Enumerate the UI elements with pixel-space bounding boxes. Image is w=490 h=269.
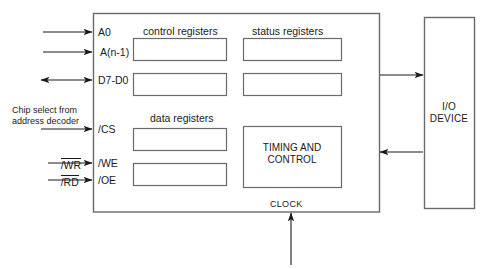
clock-label: CLOCK bbox=[270, 199, 303, 209]
io-device-line1: I/O bbox=[424, 101, 474, 113]
control-register-box-1 bbox=[134, 39, 227, 61]
io-device-line2: DEVICE bbox=[424, 113, 474, 125]
chip-select-note-line1: Chip select from bbox=[12, 105, 77, 115]
rd-signal-label: /RD bbox=[49, 163, 79, 200]
timing-and-control-line2: CONTROL bbox=[243, 154, 341, 166]
data-register-box-2 bbox=[134, 164, 227, 186]
status-registers-label: status registers bbox=[252, 25, 323, 37]
pin-label-d7d0: D7-D0 bbox=[98, 74, 128, 86]
pin-label-oe: /OE bbox=[98, 174, 116, 186]
chip-select-note-line2: address decoder bbox=[12, 116, 79, 126]
status-register-box-2 bbox=[244, 74, 342, 96]
diagram-vector-layer bbox=[0, 0, 490, 269]
pin-label-cs: /CS bbox=[98, 123, 116, 135]
pin-label-we: /WE bbox=[98, 157, 118, 169]
data-register-box-1 bbox=[134, 129, 227, 151]
data-registers-label: data registers bbox=[150, 112, 214, 124]
rd-signal-text: /RD bbox=[61, 175, 79, 188]
pin-label-an1: A(n-1) bbox=[100, 46, 129, 58]
pin-label-a0: A0 bbox=[98, 26, 111, 38]
timing-and-control-line1: TIMING AND bbox=[243, 142, 341, 154]
diagram-canvas: A0 A(n-1) D7-D0 /CS /WE /OE Chip select … bbox=[0, 0, 490, 269]
chip-outline bbox=[94, 14, 380, 213]
status-register-box-1 bbox=[244, 39, 342, 61]
control-registers-label: control registers bbox=[143, 25, 218, 37]
control-register-box-2 bbox=[134, 74, 227, 96]
